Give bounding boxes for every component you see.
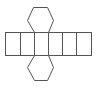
- rectangle-face-3: [35, 33, 49, 56]
- rectangular-faces: [6, 33, 92, 56]
- hexagon-face-top: [28, 8, 54, 33]
- hexagonal-prism-net-diagram: [0, 0, 101, 89]
- hexagon-face-bottom: [28, 56, 54, 81]
- rectangle-face-2: [21, 33, 35, 56]
- rectangle-face-1: [6, 33, 21, 56]
- rectangle-face-6: [77, 33, 92, 56]
- rectangle-face-4: [49, 33, 63, 56]
- rectangle-face-5: [63, 33, 77, 56]
